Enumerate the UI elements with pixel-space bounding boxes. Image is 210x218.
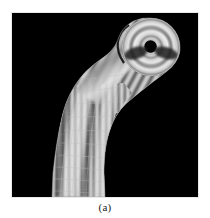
figure-root: (a) <box>0 0 210 218</box>
figure-caption: (a) <box>0 200 210 214</box>
figure-image-panel <box>12 13 198 197</box>
femur-stress-visualization <box>12 13 198 197</box>
